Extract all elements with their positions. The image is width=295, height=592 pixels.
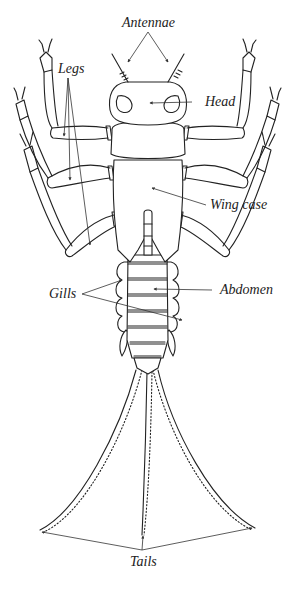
label-abdomen: Abdomen: [220, 283, 273, 297]
label-tails: Tails: [130, 555, 157, 569]
nymph-anatomy-diagram: Antennae Head Legs Wing case Abdomen Gil…: [0, 0, 295, 592]
label-head: Head: [205, 95, 235, 109]
label-antennae: Antennae: [122, 16, 175, 30]
thorax-illustration: [111, 122, 185, 262]
head-illustration: [110, 54, 187, 125]
tails-illustration: [40, 370, 255, 535]
label-gills: Gills: [49, 287, 76, 301]
label-legs: Legs: [58, 62, 84, 76]
legs-right: [177, 39, 281, 257]
label-wing-case: Wing case: [210, 198, 267, 212]
